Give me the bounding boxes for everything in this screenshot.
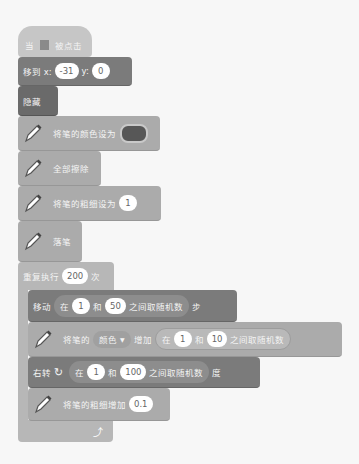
when-flag-clicked-block[interactable]: 当 被点击 (18, 26, 92, 57)
rotate-right-icon: ↻ (54, 366, 63, 379)
set-pen-color-label: 将笔的颜色设为 (53, 127, 116, 139)
pen-icon (23, 158, 43, 178)
random-min-input[interactable]: 1 (87, 364, 105, 380)
y-input[interactable]: 0 (92, 63, 110, 79)
color-swatch[interactable] (120, 124, 148, 143)
random-reporter[interactable]: 在 1 和 10 之间取随机数 (155, 328, 292, 350)
pen-icon (23, 193, 43, 213)
green-flag-icon (40, 40, 49, 50)
repeat-block[interactable]: 重复执行 200 次 (18, 262, 114, 290)
random-in-label: 在 (75, 366, 84, 378)
random-and-label: 和 (108, 366, 117, 378)
goto-y-label: y: (82, 66, 89, 76)
turn-right-block[interactable]: 右转 ↻ 在 1 和 100 之间取随机数 度 (28, 357, 260, 388)
hide-block[interactable]: 隐藏 (18, 86, 58, 116)
repeat-suffix: 次 (91, 270, 100, 282)
repeat-bottom-arm[interactable]: ⤴ (18, 420, 113, 442)
move-label: 移动 (33, 300, 51, 312)
pen-down-block[interactable]: 落笔 (18, 221, 82, 262)
pen-param-value: 颜色 (99, 333, 117, 345)
pen-size-change-input[interactable]: 0.1 (129, 396, 153, 412)
goto-x-label: 移到 x: (23, 65, 52, 77)
pen-icon (33, 394, 53, 414)
random-max-input[interactable]: 50 (105, 298, 126, 314)
change-pen-size-block[interactable]: 将笔的粗细增加 0.1 (28, 388, 170, 421)
pen-down-label: 落笔 (53, 235, 71, 247)
random-min-input[interactable]: 1 (72, 298, 90, 314)
clear-label: 全部擦除 (53, 162, 89, 174)
random-in-label: 在 (162, 333, 171, 345)
pen-param-dropdown[interactable]: 颜色 ▼ (93, 331, 131, 348)
loop-arrow-icon: ⤴ (93, 424, 103, 439)
change-pen-label: 将笔的 (63, 333, 90, 345)
random-in-label: 在 (60, 300, 69, 312)
set-pen-size-label: 将笔的粗细设为 (53, 197, 116, 209)
random-tail-label: 之间取随机数 (230, 333, 284, 345)
random-max-input[interactable]: 10 (207, 331, 228, 347)
move-steps-block[interactable]: 移动 在 1 和 50 之间取随机数 步 (28, 290, 237, 322)
change-size-label: 将笔的粗细增加 (63, 398, 126, 410)
hat-suffix: 被点击 (55, 39, 82, 51)
hat-prefix: 当 (25, 39, 34, 51)
goto-xy-block[interactable]: 移到 x: -31 y: 0 (18, 57, 132, 86)
change-pen-param-block[interactable]: 将笔的 颜色 ▼ 增加 在 1 和 10 之间取随机数 (28, 322, 342, 357)
change-pen-verb: 增加 (134, 333, 152, 345)
random-tail-label: 之间取随机数 (129, 300, 183, 312)
repeat-count-input[interactable]: 200 (62, 268, 88, 284)
repeat-left-arm (18, 290, 28, 422)
random-max-input[interactable]: 100 (120, 364, 146, 380)
move-suffix: 步 (192, 300, 201, 312)
clear-block[interactable]: 全部擦除 (18, 151, 101, 186)
set-pen-color-block[interactable]: 将笔的颜色设为 (18, 116, 160, 151)
turn-label: 右转 (33, 366, 51, 378)
random-tail-label: 之间取随机数 (149, 366, 203, 378)
pen-size-input[interactable]: 1 (119, 195, 137, 211)
random-min-input[interactable]: 1 (174, 331, 192, 347)
pen-icon (23, 231, 43, 251)
set-pen-size-block[interactable]: 将笔的粗细设为 1 (18, 186, 161, 221)
random-reporter[interactable]: 在 1 和 100 之间取随机数 (69, 361, 209, 383)
pen-icon (23, 123, 43, 143)
random-and-label: 和 (195, 333, 204, 345)
dropdown-arrow-icon: ▼ (120, 336, 125, 343)
pen-icon (33, 329, 53, 349)
repeat-label: 重复执行 (23, 270, 59, 282)
random-reporter[interactable]: 在 1 和 50 之间取随机数 (54, 295, 189, 317)
hide-label: 隐藏 (23, 95, 41, 107)
x-input[interactable]: -31 (55, 63, 79, 79)
turn-suffix: 度 (212, 366, 221, 378)
random-and-label: 和 (93, 300, 102, 312)
